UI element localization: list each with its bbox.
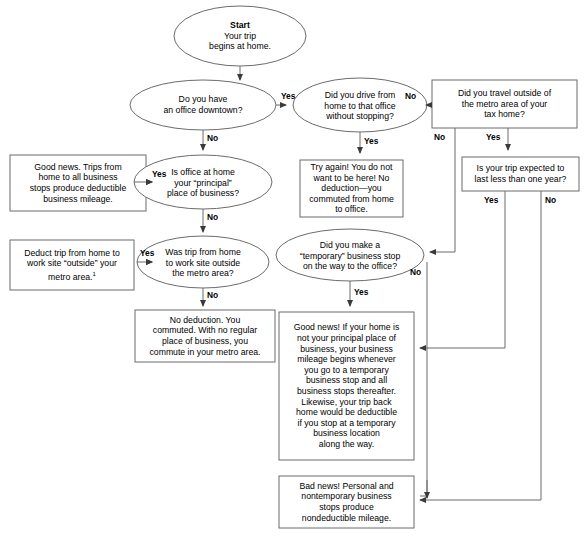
edge-label-office-home-yes: Yes [152,170,166,179]
edge-label-temporary-no: No [410,268,421,277]
edge-label-was-trip-no: No [207,291,218,300]
edge-trip-year-no-to-bad-news [420,191,541,500]
edge-label-office-downtown-no: No [207,134,218,143]
node-travel-outside-metro: Did you travel outside of the metro area… [434,82,575,126]
edge-label-travel-outside-no: No [434,133,445,142]
node-was-trip-outside-metro: Was trip from home to work site outside … [142,245,264,281]
edge-label-travel-outside-yes: Yes [486,133,500,142]
footnote-marker: 1 [93,271,96,277]
edge-label-trip-year-no: No [545,196,556,205]
node-start: Start Your trip begins at home. [174,10,306,62]
edge-label-trip-year-yes: Yes [484,196,498,205]
node-office-downtown: Do you have an office downtown? [130,88,276,122]
node-good-news-temporary: Good news! If your home is not your prin… [281,314,412,458]
edge-label-drive-no: No [405,92,416,101]
edge-label-office-home-no: No [207,213,218,222]
node-temporary-stop: Did you make a “temporary” business stop… [283,238,417,274]
node-trip-less-than-year: Is your trip expected to last less than … [464,159,577,189]
node-try-again: Try again! You do not want to be here! N… [302,162,401,215]
flowchart-canvas: Start Your trip begins at home. Do you h… [0,0,585,537]
node-deduct-trip-outside: Deduct trip from home to work site “outs… [12,242,132,288]
node-no-deduction-commuted: No deduction. You commuted. With no regu… [137,312,273,360]
edge-label-drive-yes: Yes [364,137,378,146]
node-good-news-trips: Good news. Trips from home to all busine… [12,157,144,209]
edge-trip-year-yes-to-good-news [420,191,505,348]
edge-temporary-no-path [420,262,427,496]
node-bad-news: Bad news! Personal and nontemporary busi… [281,478,412,526]
node-start-title: Start [230,20,250,31]
deduct-trip-line3-wrapper: metro area.1 [48,269,96,282]
edge-label-temporary-yes: Yes [354,288,368,297]
edge-label-office-downtown-yes: Yes [281,92,295,101]
edge-label-was-trip-yes: Yes [140,249,154,258]
